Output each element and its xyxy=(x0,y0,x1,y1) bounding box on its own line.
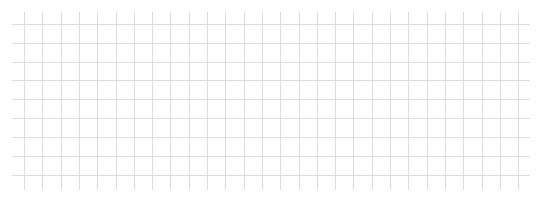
grid-canvas xyxy=(0,0,541,197)
grid-background xyxy=(0,0,541,197)
